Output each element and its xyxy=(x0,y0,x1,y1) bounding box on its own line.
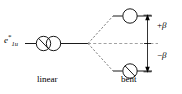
upper-correlation-line xyxy=(88,16,113,44)
orbital-label: e*1u xyxy=(4,34,18,47)
upper-split-energy-label: +β xyxy=(157,21,167,30)
orbital-label-subscript: 1u xyxy=(12,40,19,47)
upper-split-beta-symbol: β xyxy=(162,20,166,30)
lower-split-energy-label: −β xyxy=(157,51,167,60)
left-geometry-label: linear xyxy=(37,75,58,84)
right-geometry-label: bent xyxy=(121,75,137,84)
lower-split-beta-symbol: β xyxy=(162,50,166,60)
walsh-diagram-svg xyxy=(0,0,182,94)
walsh-diagram: e*1u +β −β linear bent xyxy=(0,0,182,94)
lower-correlation-line xyxy=(88,44,113,72)
orbital-upper-right-circle xyxy=(123,9,137,23)
